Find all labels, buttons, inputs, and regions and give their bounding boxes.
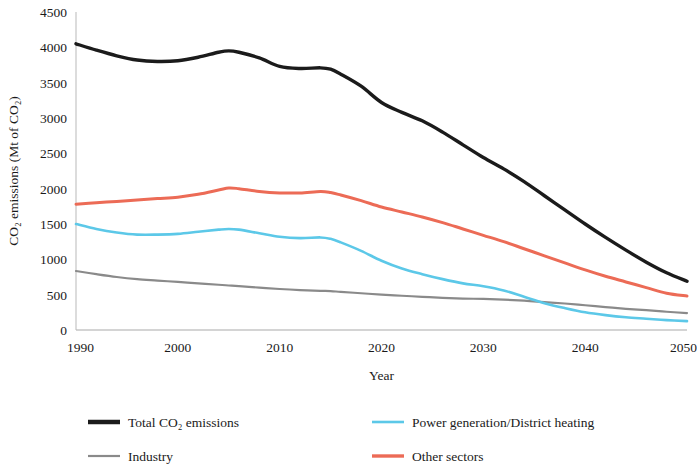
legend-item: Industry bbox=[88, 449, 173, 464]
y-tick-label: 4500 bbox=[40, 5, 67, 20]
series-line-industry bbox=[76, 271, 687, 313]
chart-legend: Total CO₂ emissionsPower generation/Dist… bbox=[88, 415, 594, 464]
x-tick-label: 1990 bbox=[67, 340, 94, 355]
series-line-total-co-emissions bbox=[76, 44, 687, 281]
y-tick-label: 2000 bbox=[40, 182, 67, 197]
y-tick-label: 3000 bbox=[40, 111, 67, 126]
legend-label: Industry bbox=[128, 449, 173, 464]
co2-emissions-line-chart: 050010001500200025003000350040004500 199… bbox=[0, 0, 697, 471]
y-tick-label: 500 bbox=[47, 288, 68, 303]
x-tick-label: 2010 bbox=[266, 340, 293, 355]
legend-label: Other sectors bbox=[412, 449, 484, 464]
y-axis-title: CO₂ emissions (Mt of CO₂) bbox=[6, 96, 21, 246]
legend-label: Power generation/District heating bbox=[412, 415, 594, 430]
legend-label: Total CO₂ emissions bbox=[128, 415, 239, 430]
y-tick-label: 3500 bbox=[40, 76, 67, 91]
series-line-other-sectors bbox=[76, 188, 687, 296]
legend-item: Total CO₂ emissions bbox=[88, 415, 239, 430]
x-tick-label: 2030 bbox=[470, 340, 497, 355]
y-tick-label: 2500 bbox=[40, 146, 67, 161]
x-tick-label: 2020 bbox=[368, 340, 395, 355]
y-axis-tick-labels: 050010001500200025003000350040004500 bbox=[40, 5, 67, 338]
data-series bbox=[76, 44, 687, 321]
legend-item: Power generation/District heating bbox=[372, 415, 594, 430]
x-tick-label: 2000 bbox=[164, 340, 191, 355]
y-tick-label: 4000 bbox=[40, 40, 67, 55]
y-tick-label: 0 bbox=[60, 323, 67, 338]
chart-canvas: 050010001500200025003000350040004500 199… bbox=[0, 0, 697, 471]
x-axis-tick-labels: 1990200020102020203020402050 bbox=[67, 340, 697, 355]
y-tick-label: 1000 bbox=[40, 252, 67, 267]
x-tick-label: 2050 bbox=[670, 340, 697, 355]
x-axis-title: Year bbox=[369, 368, 394, 383]
legend-item: Other sectors bbox=[372, 449, 484, 464]
y-tick-label: 1500 bbox=[40, 217, 67, 232]
x-tick-label: 2040 bbox=[572, 340, 599, 355]
